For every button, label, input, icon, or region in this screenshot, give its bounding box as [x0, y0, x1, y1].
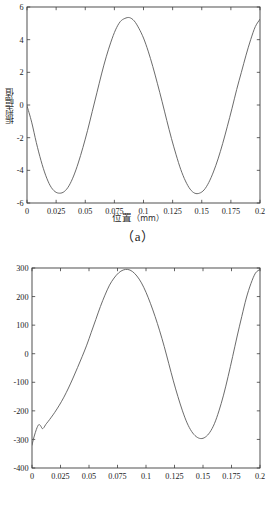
chart-a-y-tick-label: 0	[19, 101, 23, 110]
chart-a-series-line-0	[27, 17, 260, 193]
figure-panel-b: 00.0250.050.0750.10.1250.150.1750.2-400-…	[0, 250, 276, 524]
chart-a-y-tick-label: -4	[17, 166, 24, 175]
chart-b-x-tick-label: 0.1	[141, 472, 151, 481]
chart-b-x-tick-label: 0.2	[255, 472, 265, 481]
figure-a-caption: （a）	[0, 226, 276, 245]
chart-b-y-tick-label: -100	[13, 378, 28, 387]
chart-b-y-tick-label: -200	[13, 407, 28, 416]
chart-a-y-axis-label: 振型幅值	[2, 88, 15, 124]
chart-b-y-tick-label: -400	[13, 464, 28, 473]
chart-b-x-tick-label: 0.175	[222, 472, 240, 481]
chart-a-x-axis-label: 位置（mm）	[0, 210, 276, 224]
chart-b-x-tick-label: 0	[30, 472, 34, 481]
chart-b-y-tick-label: 200	[16, 293, 28, 302]
plot-a-wrapper: 00.0250.050.0750.10.1250.150.1750.2-6-4-…	[0, 0, 276, 215]
chart-b-y-tick-label: 300	[16, 264, 28, 273]
chart-b-series-line-0	[32, 269, 260, 445]
chart-a-plot-group: 00.0250.050.0750.10.1250.150.1750.2-6-4-…	[17, 3, 265, 215]
figure-panel-a: 00.0250.050.0750.10.1250.150.1750.2-6-4-…	[0, 0, 276, 250]
chart-b-x-tick-label: 0.05	[82, 472, 96, 481]
plot-b-wrapper: 00.0250.050.0750.10.1250.150.1750.2-400-…	[0, 250, 276, 480]
chart-a-y-tick-label: -6	[17, 199, 24, 208]
chart-a-y-tick-label: 6	[19, 3, 23, 12]
chart-b-x-tick-label: 0.025	[51, 472, 69, 481]
chart-b-y-tick-label: 0	[24, 350, 28, 359]
chart-a-canvas: 00.0250.050.0750.10.1250.150.1750.2-6-4-…	[0, 0, 276, 215]
chart-b-y-tick-label: -300	[13, 436, 28, 445]
chart-b-x-tick-label: 0.075	[108, 472, 126, 481]
chart-a-axes-frame	[27, 7, 260, 203]
chart-a-y-tick-label: -2	[17, 134, 24, 143]
chart-b-canvas: 00.0250.050.0750.10.1250.150.1750.2-400-…	[0, 250, 276, 480]
chart-a-y-tick-label: 2	[19, 68, 23, 77]
chart-b-plot-group: 00.0250.050.0750.10.1250.150.1750.2-400-…	[13, 264, 265, 480]
chart-b-x-tick-label: 0.15	[196, 472, 210, 481]
chart-a-x-axis-label-main: 位置	[112, 212, 132, 223]
chart-b-x-tick-label: 0.125	[165, 472, 183, 481]
chart-b-y-tick-label: 100	[16, 321, 28, 330]
chart-a-y-tick-label: 4	[19, 36, 23, 45]
chart-b-axes-frame	[32, 268, 260, 468]
chart-a-x-axis-label-unit: （mm）	[132, 214, 164, 223]
